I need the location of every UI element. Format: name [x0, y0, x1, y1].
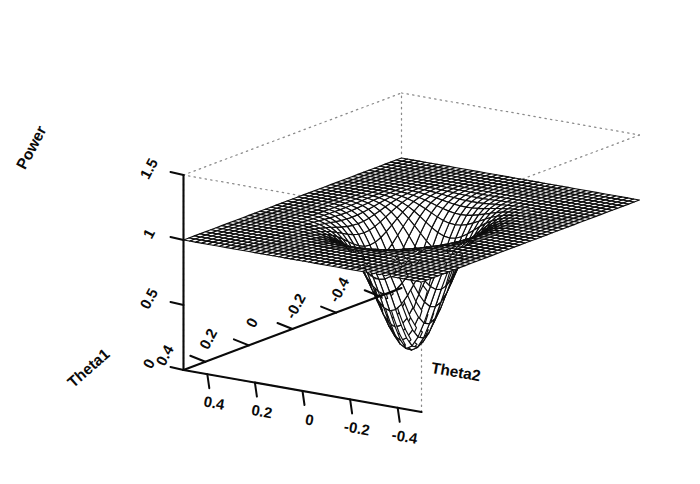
- theta1-tick-label: -0.2: [282, 291, 309, 322]
- theta2-axis-tick: [350, 399, 352, 413]
- power-axis-title: Power: [13, 123, 50, 172]
- power-tick-label: 1: [139, 226, 158, 241]
- theta1-tick-label: 0.2: [196, 326, 221, 352]
- power-tick-label: 1.5: [136, 155, 161, 181]
- plot-canvas: 00.511.5Power0.40.20-0.2-0.4Theta10.40.2…: [0, 0, 700, 484]
- theta2-axis-tick: [398, 408, 400, 422]
- theta1-tick-label: -0.4: [325, 274, 352, 305]
- theta1-axis-tick: [321, 307, 336, 313]
- theta2-tick-label: -0.2: [343, 417, 371, 438]
- theta2-axis-tick: [207, 374, 209, 388]
- theta1-axis-title: Theta1: [64, 345, 113, 391]
- theta1-tick-label: 0: [242, 315, 261, 330]
- theta2-axis-tick: [255, 383, 257, 397]
- theta1-axis-tick: [278, 323, 293, 329]
- theta2-tick-label: 0.4: [203, 393, 227, 413]
- power-axis-tick: [171, 172, 184, 175]
- power-axis-tick: [171, 302, 184, 305]
- theta1-axis-tick: [190, 356, 205, 362]
- power-axis-tick: [171, 237, 184, 240]
- theta2-tick-label: -0.4: [390, 426, 419, 447]
- theta2-tick-label: 0.2: [250, 401, 273, 421]
- theta2-axis-title: Theta2: [430, 359, 482, 384]
- power-axis-tick: [171, 367, 184, 370]
- power-tick-label: 0.5: [136, 285, 161, 311]
- theta2-tick-label: 0: [304, 410, 315, 428]
- theta2-axis-tick: [303, 391, 305, 405]
- surface-plot-figure: 00.511.5Power0.40.20-0.2-0.4Theta10.40.2…: [0, 0, 700, 484]
- theta1-axis-tick: [234, 339, 249, 345]
